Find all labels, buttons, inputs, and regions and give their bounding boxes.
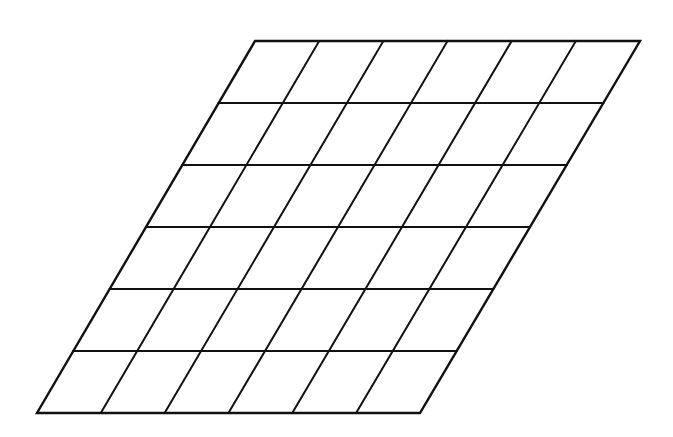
parallelogram-grid bbox=[0, 0, 673, 437]
figure-canvas bbox=[0, 0, 673, 437]
